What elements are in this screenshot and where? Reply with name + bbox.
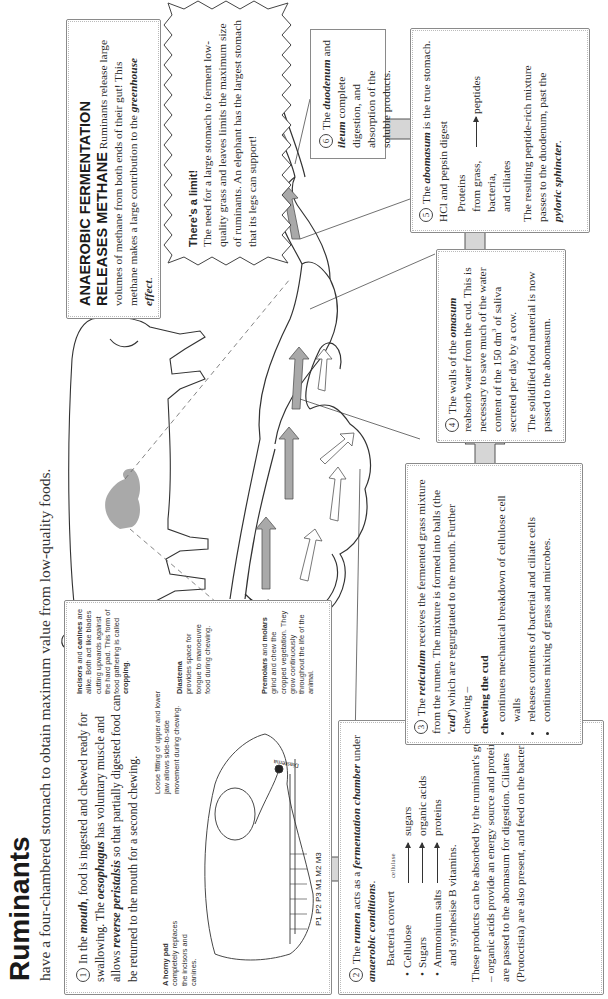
text: and [320, 40, 332, 59]
limit-text: The need for a large stomach to ferment … [200, 19, 259, 247]
step-number-badge: 1 [76, 968, 90, 982]
reaction-row: • Sugarsorganic acids [415, 733, 430, 976]
step-2-rumen-box: 2The rumen acts as a fermentation chambe… [338, 720, 604, 995]
label-premolars-molars: Premolars and molars grind and chew the … [260, 606, 316, 694]
bacteria-convert-label: Bacteria convert [383, 733, 398, 966]
step-4-omasum-box: 4The walls of the omasum reabsorb water … [436, 249, 566, 443]
product: peptides [469, 76, 484, 114]
text: from grass, [469, 150, 484, 212]
text: and ciliates [499, 150, 514, 212]
bullet-item: continues mechanical breakdown of cellul… [494, 474, 524, 722]
term-cropping: cropping [121, 662, 130, 694]
label-horny-pad: A horny pad completely replaces the inci… [161, 911, 198, 986]
bullet-item: releases contents of bacterial and cilia… [524, 474, 539, 722]
term-cud: cud [445, 715, 457, 732]
reactant: Sugars [415, 890, 430, 968]
text: is the true stomach. [420, 41, 432, 132]
label-incisors-canines: Incisors and canines are alike. Both act… [75, 606, 131, 694]
label-title: molars [260, 617, 269, 641]
label-title: canines [75, 622, 84, 650]
sheep-skull-diagram: P1 P2 P3 M1 M2 M3 Diastema [195, 714, 325, 974]
label-title: A horny pad [161, 943, 170, 986]
text: . [142, 277, 154, 280]
enzyme-label: cellulase [389, 854, 398, 879]
label-text: provides space for tongue to manoeuvre f… [184, 624, 212, 694]
term-anaerobic-conditions: anaerobic conditions [365, 884, 377, 982]
text: The [350, 943, 362, 964]
stomach-location-highlight [105, 469, 140, 529]
protein-sources: Proteins from grass, bacteria, and cilia… [454, 150, 514, 212]
term-mouth: mouth [76, 901, 90, 933]
text: The [320, 109, 332, 130]
text: The solidified food material is now pass… [524, 260, 554, 432]
product: organic acids [415, 776, 430, 836]
product: sugars [400, 807, 415, 836]
step-1-mouth-box: 1In the mouth, food is ingested and chew… [64, 600, 332, 995]
text: bacteria, [484, 150, 499, 212]
bullet-item: continues mixing of grass and microbes. [539, 474, 554, 722]
reactant: Cellulose [400, 890, 415, 968]
term-duodenum: duodenum [320, 59, 332, 109]
term-fermentation-chamber: fermentation chamber [350, 764, 362, 869]
term-reticulum: reticulum [415, 650, 427, 696]
label-text: and [75, 649, 84, 665]
text: The resulting peptide-rich mixture passe… [521, 65, 548, 222]
label-loose-fitting: Loose fitting of upper and lower jaw all… [153, 684, 181, 794]
step-number-badge: 3 [414, 720, 428, 734]
step-number-badge: 2 [349, 968, 363, 982]
step-number-badge: 5 [419, 208, 433, 222]
label-text: Loose fitting of upper and lower jaw all… [153, 691, 181, 794]
label-diastema: Diastema provides space for tongue to ma… [175, 619, 212, 694]
text: In the [76, 933, 90, 964]
term-rumen: rumen [350, 912, 362, 943]
label-title: Incisors [75, 666, 84, 694]
step-3-reticulum-box: 3The reticulum receives the fermented gr… [405, 463, 583, 745]
text: Proteins [454, 150, 469, 212]
reaction-list: • Cellulosecellulasesugars • Sugarsorgan… [400, 733, 460, 976]
vitamins-text: and synthesise B vitamins. [445, 733, 460, 966]
term-oesophagus: oesophagus [93, 841, 107, 899]
teeth-codes-label: P1 P2 P3 M1 M2 M3 [314, 852, 323, 926]
text: ') which are regurgitated to the mouth. … [445, 504, 472, 734]
product: proteins [430, 799, 445, 836]
reaction-row: • Cellulosecellulasesugars [400, 733, 415, 976]
rumen-paragraph: These products can be absorbed by the ru… [468, 733, 528, 982]
ruminants-page: Ruminants have a four-chambered stomach … [0, 0, 608, 999]
methane-info-box: ANAEROBIC FERMENTATION RELEASES METHANE … [66, 19, 161, 319]
label-title: Premolars [260, 658, 269, 694]
step-5-abomasum-box: 5The abomasum is the true stomach. HCl a… [410, 28, 590, 233]
reaction-row: • Ammonium saltsproteins [430, 733, 445, 976]
label-title: Diastema [175, 661, 184, 694]
label-text: completely replaces the incisors and can… [170, 921, 198, 986]
term-ileum: ileum [335, 121, 347, 148]
text: . [365, 881, 377, 884]
step-number-badge: 4 [445, 418, 459, 432]
text: HCl and pepsin digest [436, 39, 451, 222]
text: The [415, 695, 427, 716]
term-reverse-peristalsis: reverse peristalsis [109, 860, 123, 948]
reaction-arrow-row: peptides [469, 76, 484, 150]
term-pyloric-sphincter: pyloric sphincter [551, 143, 563, 222]
label-text: and [260, 641, 269, 657]
term-abomasum: abomasum [420, 132, 432, 183]
label-text: grind and chew the cropped vegetation. T… [269, 611, 315, 694]
reactant: Ammonium salts [430, 890, 445, 968]
protein-reaction: Proteins from grass, bacteria, and cilia… [454, 39, 514, 212]
text: under [350, 735, 362, 764]
step-6-duodenum-box: 6The duodenum and ileum complete digesti… [310, 29, 386, 159]
term-omasum: omasum [446, 298, 458, 338]
text: The walls of the [446, 337, 458, 414]
text: The [420, 183, 432, 204]
chewing-bullets: continues mechanical breakdown of cellul… [494, 474, 554, 734]
text: . [551, 140, 563, 143]
limit-heading: There's a limit! [186, 19, 200, 247]
step-number-badge: 6 [319, 134, 333, 148]
text: acts as a [350, 869, 362, 913]
limit-info-box: There's a limit! The need for a large st… [186, 19, 260, 247]
chewing-heading: chewing the cud [477, 474, 492, 734]
superscript: 3 [490, 329, 498, 333]
